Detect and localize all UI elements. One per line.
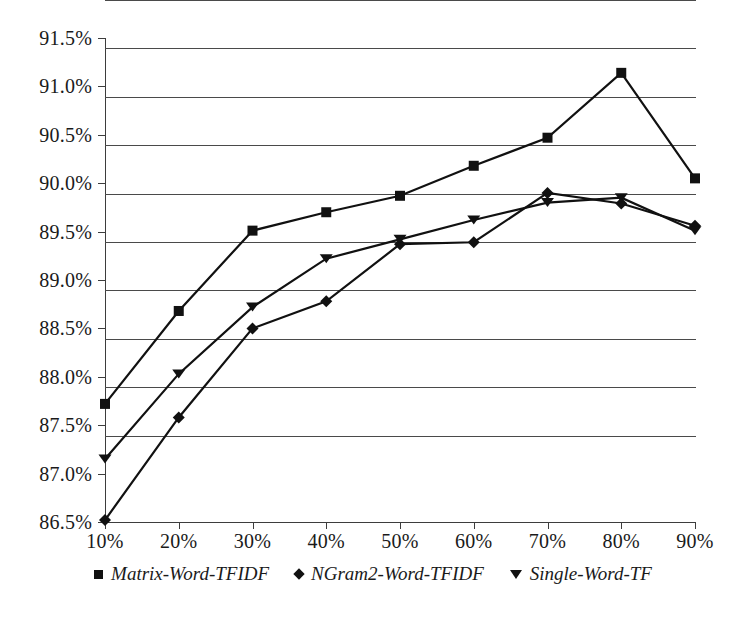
- series-layer: [0, 0, 746, 625]
- data-point-marker: [174, 306, 184, 316]
- data-point-marker: [468, 236, 480, 248]
- legend-item[interactable]: Matrix-Word-TFIDF: [94, 563, 269, 585]
- data-point-marker: [248, 226, 258, 236]
- data-point-marker: [689, 226, 702, 235]
- data-point-marker: [172, 369, 185, 378]
- legend-label: Matrix-Word-TFIDF: [111, 563, 269, 585]
- data-point-marker: [100, 399, 110, 409]
- data-point-marker: [394, 235, 407, 244]
- square-marker-icon: [94, 570, 103, 579]
- triangle-down-marker-icon: [510, 570, 522, 579]
- data-point-marker: [321, 207, 331, 217]
- data-point-marker: [469, 161, 479, 171]
- data-point-marker: [690, 173, 700, 183]
- data-point-marker: [543, 133, 553, 143]
- data-point-marker: [99, 455, 112, 464]
- legend-item[interactable]: Single-Word-TF: [510, 563, 652, 585]
- data-point-marker: [395, 191, 405, 201]
- legend-item[interactable]: NGram2-Word-TFIDF: [295, 563, 484, 585]
- series-single-word-tf: [99, 193, 702, 463]
- chart-legend: Matrix-Word-TFIDFNGram2-Word-TFIDFSingle…: [0, 563, 746, 585]
- legend-label: NGram2-Word-TFIDF: [311, 563, 484, 585]
- line-chart: 86.5%87.0%87.5%88.0%88.5%89.0%89.5%90.0%…: [0, 0, 746, 625]
- data-point-marker: [616, 68, 626, 78]
- legend-label: Single-Word-TF: [530, 563, 652, 585]
- diamond-marker-icon: [293, 568, 304, 579]
- data-point-marker: [542, 187, 554, 199]
